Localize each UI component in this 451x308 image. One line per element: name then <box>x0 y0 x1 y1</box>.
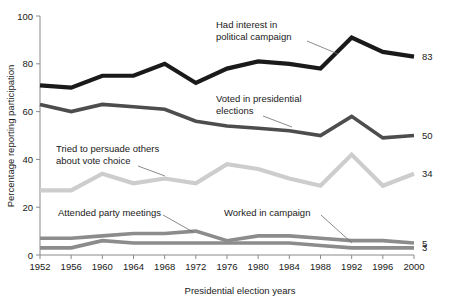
x-axis-tick-label: 1992 <box>341 261 362 272</box>
x-axis-title: Presidential election years <box>185 285 296 296</box>
y-axis-tick-label: 20 <box>22 202 33 213</box>
annotation-label: political campaign <box>216 31 292 42</box>
y-axis-tick-label: 100 <box>17 11 33 22</box>
x-axis-tick-label: 2000 <box>403 261 424 272</box>
annotation-label: Worked in campaign <box>224 207 310 218</box>
y-axis-tick-label: 60 <box>22 106 33 117</box>
series-end-value: 50 <box>422 130 433 141</box>
x-axis-tick-label: 1976 <box>216 261 237 272</box>
x-axis-tick-label: 1980 <box>248 261 269 272</box>
x-axis: 1952195619601964196819721976198019841988… <box>29 255 424 272</box>
annotation-label: Tried to persuade others <box>56 143 159 154</box>
annotations: Had interest inpolitical campaignVoted i… <box>56 19 352 243</box>
annotation-leader-line <box>138 166 165 176</box>
x-axis-tick-label: 1996 <box>372 261 393 272</box>
annotation-label: about vote choice <box>56 155 130 166</box>
series-end-value: 34 <box>422 168 433 179</box>
series-end-value: 3 <box>422 242 427 253</box>
x-axis-tick-label: 1988 <box>310 261 331 272</box>
annotation-leader-line <box>163 215 193 232</box>
x-axis-tick-label: 1960 <box>92 261 113 272</box>
line-chart: 020406080100 195219561960196419681972197… <box>0 0 451 308</box>
y-axis-tick-label: 80 <box>22 58 33 69</box>
x-axis-tick-label: 1964 <box>123 261 144 272</box>
annotation-label: elections <box>216 105 254 116</box>
series-line <box>40 38 414 88</box>
annotation-label: Voted in presidential <box>216 93 302 104</box>
end-value-labels: 83503453 <box>422 51 433 253</box>
chart-container: 020406080100 195219561960196419681972197… <box>0 0 451 308</box>
annotation-label: Attended party meetings <box>58 207 161 218</box>
series-end-value: 83 <box>422 51 433 62</box>
x-axis-tick-label: 1952 <box>29 261 50 272</box>
x-axis-tick-label: 1956 <box>61 261 82 272</box>
y-axis-title: Percentage reporting participation <box>5 65 16 208</box>
annotation-label: Had interest in <box>216 19 277 30</box>
y-axis: 020406080100 <box>17 11 40 261</box>
annotation-leader-line <box>307 41 338 54</box>
x-axis-tick-label: 1984 <box>279 261 300 272</box>
x-axis-tick-label: 1972 <box>185 261 206 272</box>
y-axis-tick-label: 40 <box>22 154 33 165</box>
annotation-leader-line <box>263 116 292 127</box>
x-axis-tick-label: 1968 <box>154 261 175 272</box>
y-axis-tick-label: 0 <box>28 250 33 261</box>
